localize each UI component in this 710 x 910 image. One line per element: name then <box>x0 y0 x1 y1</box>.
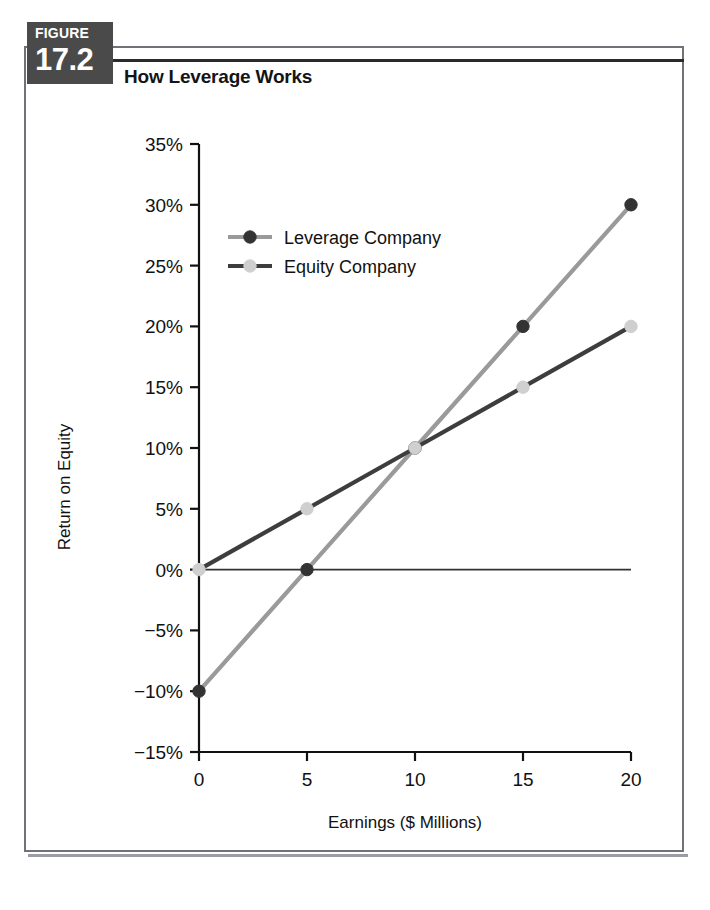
legend-label-1: Equity Company <box>284 257 416 277</box>
data-point-leverage-company <box>193 685 205 697</box>
chart-legend: Leverage CompanyEquity Company <box>228 228 441 277</box>
y-tick-label: 20% <box>145 316 183 337</box>
legend-marker-1 <box>244 260 256 272</box>
y-tick-label: 0% <box>156 560 184 581</box>
x-tick-label: 15 <box>512 769 533 790</box>
x-tick-label: 0 <box>194 769 205 790</box>
figure-number-badge: FIGURE 17.2 <box>27 22 113 84</box>
y-tick-label: 30% <box>145 195 183 216</box>
figure-title: How Leverage Works <box>124 66 312 88</box>
chart-container: 35%30%25%20%15%10%5%0%−5%−10%−15% 051015… <box>0 0 710 910</box>
y-axis-ticks <box>190 144 199 752</box>
data-point-leverage-company <box>625 199 637 211</box>
data-point-equity-company <box>625 320 637 332</box>
data-point-leverage-company <box>301 563 313 575</box>
x-axis-title: Earnings ($ Millions) <box>328 813 482 832</box>
y-tick-label: −10% <box>134 681 183 702</box>
y-tick-label: −15% <box>134 742 183 763</box>
data-point-leverage-company <box>517 320 529 332</box>
x-tick-label: 10 <box>404 769 425 790</box>
y-axis-tick-labels: 35%30%25%20%15%10%5%0%−5%−10%−15% <box>134 134 183 763</box>
data-point-equity-company <box>301 503 313 515</box>
y-tick-label: 5% <box>156 499 184 520</box>
y-tick-label: 15% <box>145 377 183 398</box>
data-point-equity-company <box>193 563 205 575</box>
figure-badge-word: FIGURE <box>35 26 107 40</box>
x-axis-ticks <box>199 752 631 761</box>
figure-header-rule <box>113 59 684 62</box>
data-point-equity-company <box>517 381 529 393</box>
y-axis-title: Return on Equity <box>55 423 74 550</box>
data-point-equity-company <box>409 442 421 454</box>
legend-marker-0 <box>244 231 256 243</box>
y-tick-label: −5% <box>144 620 183 641</box>
x-tick-label: 20 <box>620 769 641 790</box>
x-tick-label: 5 <box>302 769 313 790</box>
leverage-line-chart: 35%30%25%20%15%10%5%0%−5%−10%−15% 051015… <box>0 0 710 910</box>
legend-label-0: Leverage Company <box>284 228 441 248</box>
figure-badge-number: 17.2 <box>35 42 107 78</box>
y-tick-label: 10% <box>145 438 183 459</box>
y-tick-label: 25% <box>145 256 183 277</box>
y-tick-label: 35% <box>145 134 183 155</box>
x-axis-tick-labels: 05101520 <box>194 769 642 790</box>
